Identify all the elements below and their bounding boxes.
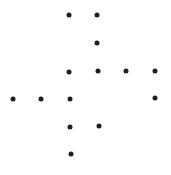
dot [96,69,101,74]
dot [68,97,73,102]
dot [39,97,44,102]
dot [11,97,16,102]
dot [95,13,100,18]
dot [95,41,100,46]
dot [69,152,74,157]
dot [153,96,158,101]
dot [68,125,73,130]
dot-pattern-canvas [0,0,171,175]
dot [124,69,129,74]
dot [67,13,72,18]
dot [97,124,102,129]
dot [153,69,158,74]
dot [67,70,72,75]
